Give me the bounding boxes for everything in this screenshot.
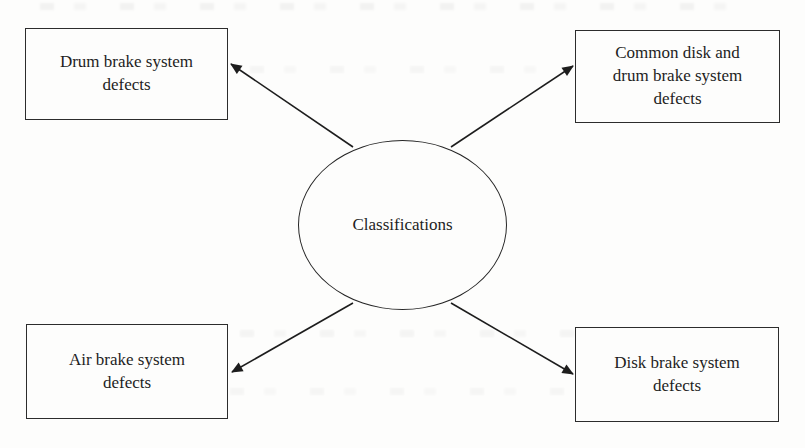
scan-artifact [250, 66, 550, 73]
scan-artifact [40, 3, 750, 10]
center-node-classifications: Classifications [298, 140, 507, 310]
node-label-line: defects [103, 372, 151, 395]
node-disk-brake-system-defects: Disk brake system defects [575, 327, 779, 422]
node-label-line: defects [653, 375, 701, 398]
arrow-to-bottom-right [451, 303, 573, 374]
node-drum-brake-system-defects: Drum brake system defects [25, 28, 228, 120]
center-node-label: Classifications [352, 215, 452, 235]
node-label-line: defects [102, 74, 150, 97]
node-label-line: Air brake system [69, 349, 185, 372]
arrow-to-top-left [231, 64, 353, 147]
node-common-disk-and-drum-brake-system-defects: Common disk and drum brake system defect… [575, 30, 780, 123]
node-label-line: drum brake system [613, 65, 742, 88]
node-label-line: Common disk and [615, 42, 740, 65]
figure-canvas: Drum brake system defects Common disk an… [0, 0, 805, 448]
node-air-brake-system-defects: Air brake system defects [26, 324, 228, 419]
node-label-line: Disk brake system [614, 352, 740, 375]
node-label-line: defects [653, 88, 701, 111]
arrow-to-bottom-left [232, 303, 353, 372]
arrow-to-top-right [451, 66, 573, 147]
node-label-line: Drum brake system [60, 51, 193, 74]
